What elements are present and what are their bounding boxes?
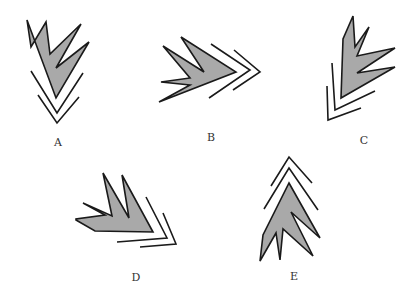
label-b: B bbox=[207, 131, 215, 144]
chevron-a-2 bbox=[38, 95, 79, 123]
figure-b: B bbox=[159, 37, 260, 144]
arrow-shape-a bbox=[27, 20, 89, 98]
label-d: D bbox=[132, 271, 141, 284]
label-a: A bbox=[53, 136, 63, 149]
figure-d: D bbox=[76, 173, 176, 284]
arrow-shape-e bbox=[260, 183, 320, 261]
label-e: E bbox=[290, 270, 298, 283]
figure-c: C bbox=[327, 16, 395, 147]
arrow-shape-b bbox=[159, 37, 236, 102]
figure-a: A bbox=[27, 20, 89, 149]
figure-e: E bbox=[260, 157, 320, 283]
arrow-shape-d bbox=[76, 173, 153, 232]
figure-canvas: A B C D E bbox=[0, 0, 416, 299]
chevron-b-2 bbox=[233, 50, 260, 90]
arrow-shape-c bbox=[341, 16, 395, 98]
label-c: C bbox=[360, 134, 368, 147]
